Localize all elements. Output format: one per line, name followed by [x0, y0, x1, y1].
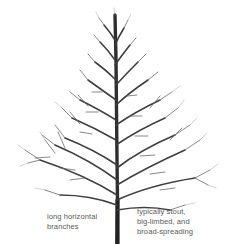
annotation-right-line-3: broad-spreading [137, 227, 193, 237]
annotation-long-horizontal-branches: long horizontal branches [47, 212, 97, 232]
tree-drawing-icon [0, 0, 233, 244]
tree-illustration-figure: long horizontal branches typically stout… [0, 0, 233, 244]
annotation-right-line-2: big-limbed, and [137, 217, 193, 227]
annotation-right-line-1: typically stout, [137, 207, 193, 217]
annotation-left-line-2: branches [47, 222, 97, 232]
annotation-left-line-1: long horizontal [47, 212, 97, 222]
annotation-stout-big-limbed: typically stout, big-limbed, and broad-s… [137, 207, 193, 237]
